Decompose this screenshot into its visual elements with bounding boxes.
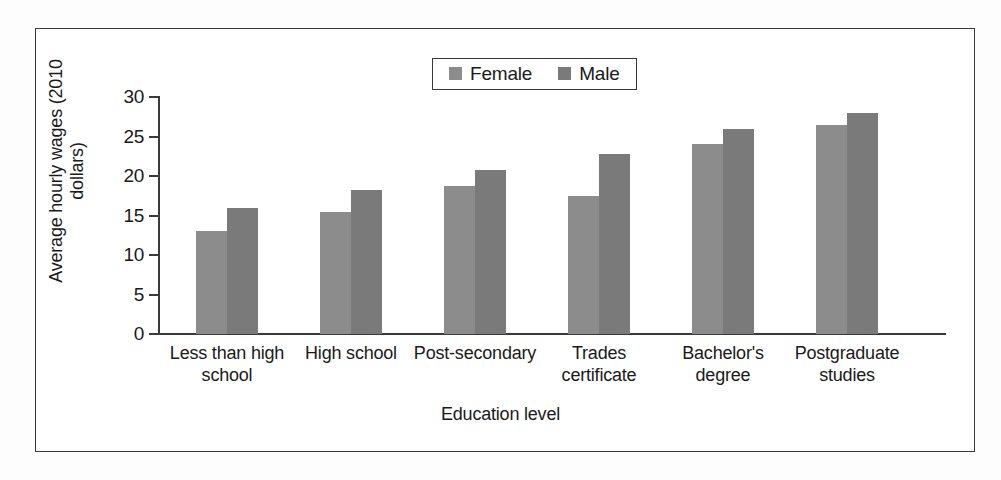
- bar-female: [444, 186, 475, 334]
- y-axis-tick-label: 15: [100, 206, 144, 225]
- y-axis-tick-label: 10: [100, 245, 144, 264]
- bar-group: [196, 97, 258, 334]
- bar-group: [568, 97, 630, 334]
- y-axis-tick: [149, 215, 159, 217]
- plot-area: [163, 97, 945, 334]
- y-axis-tick: [149, 175, 159, 177]
- y-axis-tick-label: 30: [100, 87, 144, 106]
- legend-label-female: Female: [470, 64, 532, 83]
- bar-male: [847, 113, 878, 334]
- bar-male: [723, 129, 754, 334]
- bar-group: [816, 97, 878, 334]
- bar-female: [320, 212, 351, 334]
- y-axis-tick-label: 0: [100, 324, 144, 343]
- bar-male: [599, 154, 630, 334]
- bar-group: [320, 97, 382, 334]
- bar-female: [568, 196, 599, 334]
- y-axis-tick: [149, 294, 159, 296]
- bar-female: [816, 125, 847, 334]
- y-axis-tick: [149, 333, 159, 335]
- legend-swatch-icon: [558, 67, 571, 80]
- y-axis-tick: [149, 254, 159, 256]
- y-axis-tick: [149, 136, 159, 138]
- legend-swatch-icon: [449, 67, 462, 80]
- bar-female: [196, 231, 227, 334]
- x-axis-category-label: Postgraduate studies: [757, 342, 937, 386]
- x-axis-title: Education level: [0, 404, 1001, 424]
- bar-female: [692, 144, 723, 334]
- bar-male: [351, 190, 382, 334]
- chart-figure: Female Male Average hourly wages (2010 d…: [0, 0, 1001, 480]
- bar-group: [444, 97, 506, 334]
- y-axis-tick-label: 20: [100, 166, 144, 185]
- bar-male: [475, 170, 506, 334]
- legend-entry-female: Female: [449, 64, 532, 83]
- y-axis-tick-label: 25: [100, 127, 144, 146]
- y-axis-title: Average hourly wages (2010 dollars): [46, 56, 88, 286]
- bar-group: [692, 97, 754, 334]
- y-axis-tick-label: 5: [100, 285, 144, 304]
- bar-male: [227, 208, 258, 334]
- y-axis-tick: [149, 96, 159, 98]
- chart-legend: Female Male: [432, 58, 637, 90]
- legend-entry-male: Male: [558, 64, 619, 83]
- legend-label-male: Male: [579, 64, 619, 83]
